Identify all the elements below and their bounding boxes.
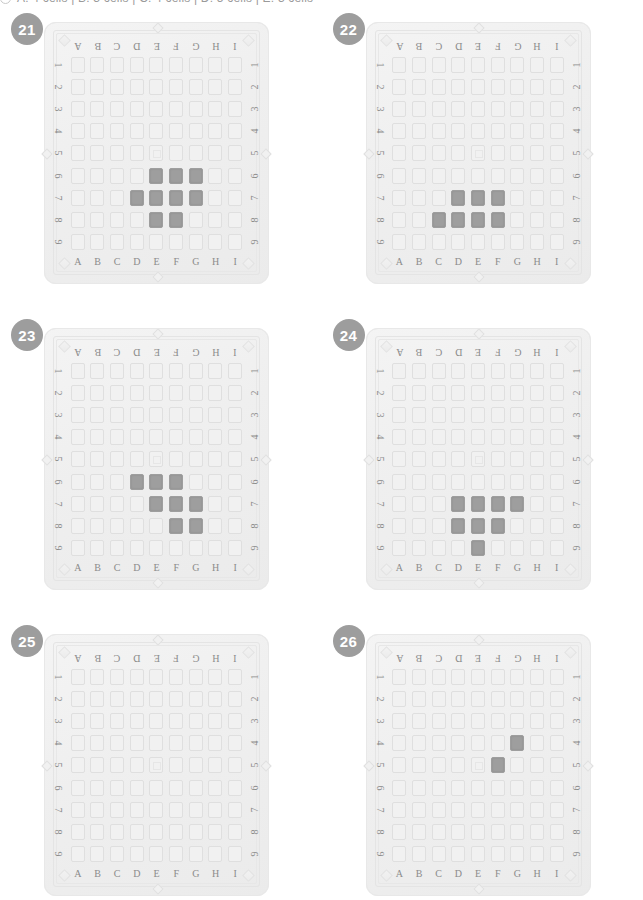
cell-D7[interactable]	[127, 799, 147, 821]
cell-D1[interactable]	[448, 54, 468, 76]
cell-C8[interactable]	[429, 209, 449, 231]
cell-C6[interactable]	[429, 777, 449, 799]
cell-A3[interactable]	[68, 98, 88, 120]
cell-C3[interactable]	[107, 98, 127, 120]
cell-D2[interactable]	[127, 76, 147, 98]
cell-I8[interactable]	[225, 515, 245, 537]
cell-E5[interactable]	[468, 142, 488, 164]
cell-F7[interactable]	[488, 799, 508, 821]
cell-F2[interactable]	[166, 688, 186, 710]
cell-G9[interactable]	[186, 843, 206, 865]
cell-G3[interactable]	[507, 98, 527, 120]
cell-A7[interactable]	[390, 187, 410, 209]
cell-E7[interactable]	[147, 187, 167, 209]
cell-I6[interactable]	[547, 165, 567, 187]
cell-H7[interactable]	[527, 187, 547, 209]
cell-D8[interactable]	[448, 515, 468, 537]
cell-I1[interactable]	[547, 54, 567, 76]
cell-G4[interactable]	[186, 732, 206, 754]
cell-D3[interactable]	[127, 710, 147, 732]
cell-A7[interactable]	[390, 493, 410, 515]
cell-C3[interactable]	[107, 404, 127, 426]
cell-I1[interactable]	[225, 666, 245, 688]
cell-G3[interactable]	[186, 710, 206, 732]
cell-G9[interactable]	[507, 537, 527, 559]
cell-G1[interactable]	[186, 54, 206, 76]
cell-F6[interactable]	[166, 471, 186, 493]
cell-B4[interactable]	[88, 732, 108, 754]
cell-H4[interactable]	[527, 426, 547, 448]
cell-D9[interactable]	[448, 231, 468, 253]
puzzle-board[interactable]: ABCDEFGHI ABCDEFGHI 123456789 123456789	[390, 54, 567, 253]
cell-D6[interactable]	[448, 777, 468, 799]
cell-E2[interactable]	[468, 76, 488, 98]
cell-E6[interactable]	[147, 777, 167, 799]
cell-F1[interactable]	[166, 54, 186, 76]
cell-C9[interactable]	[429, 537, 449, 559]
cell-F9[interactable]	[488, 537, 508, 559]
cell-H6[interactable]	[527, 777, 547, 799]
cell-B8[interactable]	[88, 209, 108, 231]
cell-G6[interactable]	[507, 777, 527, 799]
cell-A5[interactable]	[68, 448, 88, 470]
puzzle-board[interactable]: ABCDEFGHI ABCDEFGHI 123456789 123456789	[390, 666, 567, 865]
cell-G8[interactable]	[507, 209, 527, 231]
cell-I9[interactable]	[225, 537, 245, 559]
cell-F7[interactable]	[488, 493, 508, 515]
cell-I3[interactable]	[225, 404, 245, 426]
cell-B4[interactable]	[88, 120, 108, 142]
cell-G7[interactable]	[507, 493, 527, 515]
cell-B3[interactable]	[88, 710, 108, 732]
cell-G6[interactable]	[186, 165, 206, 187]
cell-B5[interactable]	[88, 448, 108, 470]
cell-C2[interactable]	[429, 382, 449, 404]
cell-D8[interactable]	[127, 209, 147, 231]
cell-D5[interactable]	[448, 142, 468, 164]
cell-H5[interactable]	[527, 754, 547, 776]
cell-B5[interactable]	[88, 142, 108, 164]
cell-I6[interactable]	[547, 471, 567, 493]
cell-C1[interactable]	[429, 54, 449, 76]
cell-C9[interactable]	[429, 843, 449, 865]
cell-G6[interactable]	[186, 777, 206, 799]
cell-H4[interactable]	[206, 120, 226, 142]
cell-F4[interactable]	[166, 732, 186, 754]
cell-H9[interactable]	[527, 231, 547, 253]
cell-H6[interactable]	[527, 165, 547, 187]
cell-I1[interactable]	[225, 360, 245, 382]
cell-H1[interactable]	[206, 54, 226, 76]
puzzle-card-23[interactable]: 23 ABCDEFGHI ABCDEFGHI 123456789	[0, 315, 322, 621]
cell-B7[interactable]	[88, 187, 108, 209]
cell-C3[interactable]	[107, 710, 127, 732]
cell-I4[interactable]	[547, 120, 567, 142]
cell-A9[interactable]	[390, 843, 410, 865]
cell-D4[interactable]	[448, 120, 468, 142]
cell-A7[interactable]	[68, 493, 88, 515]
cell-B3[interactable]	[409, 98, 429, 120]
cell-D6[interactable]	[127, 165, 147, 187]
cell-I6[interactable]	[225, 777, 245, 799]
cell-E5[interactable]	[468, 448, 488, 470]
cell-H2[interactable]	[206, 382, 226, 404]
cell-B3[interactable]	[409, 404, 429, 426]
radio-unselected-icon[interactable]	[0, 0, 11, 4]
cell-I5[interactable]	[225, 142, 245, 164]
cell-H3[interactable]	[206, 404, 226, 426]
cell-E7[interactable]	[147, 799, 167, 821]
cell-D1[interactable]	[127, 360, 147, 382]
cell-C8[interactable]	[107, 515, 127, 537]
cell-F1[interactable]	[166, 360, 186, 382]
cell-I5[interactable]	[547, 448, 567, 470]
cell-B6[interactable]	[409, 165, 429, 187]
cell-E3[interactable]	[147, 710, 167, 732]
cell-G1[interactable]	[507, 360, 527, 382]
cell-B8[interactable]	[409, 209, 429, 231]
cell-D3[interactable]	[448, 710, 468, 732]
cell-H2[interactable]	[527, 382, 547, 404]
cell-F6[interactable]	[488, 165, 508, 187]
cell-D1[interactable]	[127, 666, 147, 688]
cell-I2[interactable]	[225, 382, 245, 404]
cell-E4[interactable]	[147, 732, 167, 754]
cell-D2[interactable]	[127, 688, 147, 710]
cell-A2[interactable]	[390, 382, 410, 404]
